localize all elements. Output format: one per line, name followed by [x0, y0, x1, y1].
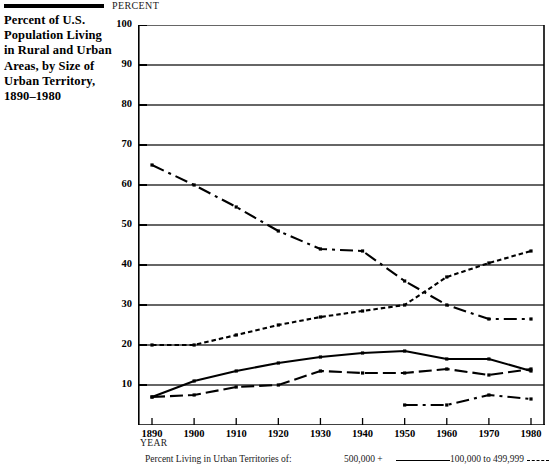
- series-point: [403, 303, 406, 306]
- series-point: [403, 403, 406, 406]
- title-rule: [4, 4, 104, 8]
- series-line-3: [152, 369, 531, 397]
- series-point: [487, 373, 490, 376]
- series-line-4: [405, 395, 531, 405]
- y-tick-label-30: 30: [104, 298, 132, 309]
- series-point: [235, 385, 238, 388]
- y-axis-label: PERCENT: [112, 0, 159, 11]
- y-tick-label-90: 90: [104, 58, 132, 69]
- series-point: [150, 343, 153, 346]
- series-point: [319, 247, 322, 250]
- series-point: [445, 357, 448, 360]
- series-point: [361, 309, 364, 312]
- legend-item-100000-to-499999: 100,000 to 499,999: [450, 454, 524, 464]
- x-tick-label-1940: 1940: [343, 428, 383, 439]
- series-point: [319, 369, 322, 372]
- series-point: [487, 261, 490, 264]
- series-line-2: [152, 351, 531, 397]
- series-point: [403, 349, 406, 352]
- series-point: [529, 367, 532, 370]
- y-tick-label-10: 10: [104, 378, 132, 389]
- page-title: Percent of U.S. Population Living in Rur…: [4, 13, 112, 104]
- series-point: [403, 371, 406, 374]
- series-point: [361, 371, 364, 374]
- x-tick-label-1950: 1950: [385, 428, 425, 439]
- series-point: [193, 183, 196, 186]
- y-tick-label-50: 50: [104, 218, 132, 229]
- series-point: [277, 361, 280, 364]
- series-point: [150, 163, 153, 166]
- series-point: [193, 393, 196, 396]
- legend-swatch-dashed: [527, 460, 549, 461]
- series-point: [150, 395, 153, 398]
- chart-legend: Percent Living in Urban Territories of: …: [145, 452, 550, 470]
- line-chart-svg: [138, 25, 545, 425]
- title-block: Percent of U.S. Population Living in Rur…: [4, 4, 112, 104]
- y-tick-label-100: 100: [104, 18, 132, 29]
- x-tick-label-1900: 1900: [174, 428, 214, 439]
- gridlines-group: [139, 25, 544, 385]
- series-point: [277, 323, 280, 326]
- x-tick-label-1890: 1890: [132, 428, 172, 439]
- series-point: [529, 397, 532, 400]
- series-point: [529, 317, 532, 320]
- x-tick-label-1930: 1930: [300, 428, 340, 439]
- series-point: [487, 393, 490, 396]
- y-tick-label-60: 60: [104, 178, 132, 189]
- legend-swatch-solid: [396, 460, 450, 461]
- series-point: [319, 315, 322, 318]
- series-point: [445, 403, 448, 406]
- series-point: [235, 333, 238, 336]
- series-point: [445, 303, 448, 306]
- x-axis-label: YEAR: [140, 438, 167, 448]
- x-tick-label-1960: 1960: [427, 428, 467, 439]
- series-point: [445, 275, 448, 278]
- series-point: [487, 317, 490, 320]
- x-tick-label-1920: 1920: [258, 428, 298, 439]
- data-series-group: [150, 163, 532, 406]
- series-point: [193, 379, 196, 382]
- chart-plot-area: [138, 25, 545, 425]
- series-point: [235, 369, 238, 372]
- x-tick-label-1970: 1970: [469, 428, 509, 439]
- series-point: [487, 357, 490, 360]
- y-tick-label-40: 40: [104, 258, 132, 269]
- series-point: [277, 229, 280, 232]
- series-point: [235, 205, 238, 208]
- y-tick-label-70: 70: [104, 138, 132, 149]
- y-tick-label-80: 80: [104, 98, 132, 109]
- series-line-0: [152, 165, 531, 319]
- series-point: [361, 249, 364, 252]
- x-tick-label-1980: 1980: [511, 428, 551, 439]
- legend-caption: Percent Living in Urban Territories of:: [145, 454, 292, 464]
- legend-item-500000-plus: 500,000 +: [344, 454, 383, 464]
- series-point: [529, 249, 532, 252]
- y-tick-label-20: 20: [104, 338, 132, 349]
- series-point: [319, 355, 322, 358]
- series-point: [277, 383, 280, 386]
- series-point: [193, 343, 196, 346]
- series-point: [445, 367, 448, 370]
- series-point: [361, 351, 364, 354]
- series-point: [403, 279, 406, 282]
- x-tick-label-1910: 1910: [216, 428, 256, 439]
